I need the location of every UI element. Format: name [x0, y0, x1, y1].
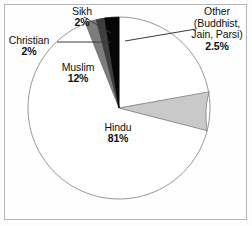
slice-label-other-percent: 2.5% — [183, 41, 251, 52]
slice-label-sikh-percent: 2% — [52, 17, 112, 28]
pie-chart-figure: Sikh 2% Christian 2% Muslim 12% Hindu 81… — [0, 0, 252, 226]
slice-label-hindu-percent: 81% — [92, 133, 144, 144]
slice-label-sikh: Sikh 2% — [52, 6, 112, 28]
slice-label-other: Other (Buddhist, Jain, Parsi) 2.5% — [183, 6, 251, 52]
slice-label-christian: Christian 2% — [0, 35, 60, 57]
slice-label-other-line3: Jain, Parsi) — [183, 29, 251, 41]
slice-label-muslim: Muslim 12% — [52, 62, 104, 84]
slice-label-hindu: Hindu 81% — [92, 122, 144, 144]
slice-label-muslim-percent: 12% — [52, 73, 104, 84]
slice-label-christian-percent: 2% — [0, 46, 60, 57]
slice-label-other-line1: Other — [183, 6, 251, 18]
